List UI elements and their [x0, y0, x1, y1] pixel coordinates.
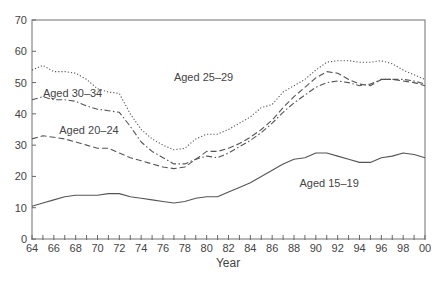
x-tick-label: 96 — [375, 242, 387, 254]
x-tick-label: 94 — [353, 242, 365, 254]
series-label: Aged 15–19 — [299, 177, 358, 189]
y-tick-label: 30 — [15, 139, 27, 151]
x-tick-label: 72 — [113, 242, 125, 254]
x-tick-label: 88 — [288, 242, 300, 254]
y-tick-label: 10 — [15, 202, 27, 214]
x-tick-label: 98 — [397, 242, 409, 254]
series-label: Aged 30–34 — [43, 87, 102, 99]
line-chart: 010203040506070 646668707274767880828486… — [0, 0, 445, 284]
x-tick-label: 76 — [157, 242, 169, 254]
x-tick-label: 82 — [222, 242, 234, 254]
x-tick-label: 78 — [179, 242, 191, 254]
series-labels: Aged 25–29Aged 30–34Aged 20–24Aged 15–19 — [43, 71, 359, 189]
x-tick-label: 70 — [91, 242, 103, 254]
x-tick-label: 74 — [135, 242, 147, 254]
figure-caption-cutoff — [0, 276, 445, 284]
x-axis: 64666870727476788082848688909294969800 — [26, 235, 431, 254]
x-tick-label: 80 — [201, 242, 213, 254]
y-tick-label: 40 — [15, 108, 27, 120]
y-axis: 010203040506070 — [15, 14, 36, 245]
x-tick-label: 90 — [310, 242, 322, 254]
y-tick-label: 60 — [15, 45, 27, 57]
x-tick-label: 86 — [266, 242, 278, 254]
y-tick-label: 50 — [15, 77, 27, 89]
x-tick-label: 66 — [48, 242, 60, 254]
y-tick-label: 20 — [15, 170, 27, 182]
series-label: Aged 25–29 — [174, 71, 233, 83]
x-tick-label: 84 — [244, 242, 256, 254]
x-axis-title: Year — [216, 256, 240, 270]
series-label: Aged 20–24 — [59, 124, 118, 136]
x-tick-label: 92 — [332, 242, 344, 254]
x-tick-label: 64 — [26, 242, 38, 254]
series-line-15-19 — [32, 153, 425, 206]
x-tick-label: 00 — [419, 242, 431, 254]
y-tick-label: 70 — [15, 14, 27, 26]
x-tick-label: 68 — [70, 242, 82, 254]
